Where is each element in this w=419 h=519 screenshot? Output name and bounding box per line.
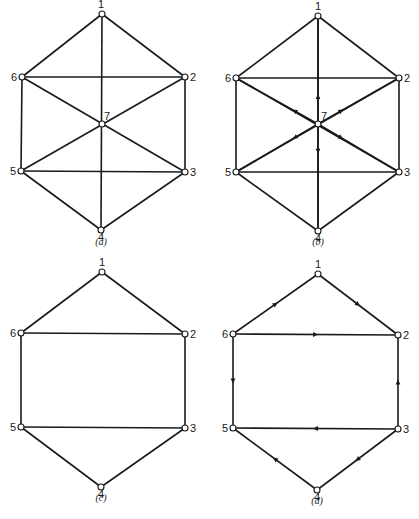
edge-6-2 — [21, 333, 185, 334]
node-label: 3 — [190, 422, 196, 434]
arrowhead-icon — [316, 149, 321, 154]
graph-caption: (d) — [311, 495, 323, 507]
node-3 — [182, 169, 188, 175]
node-label: 3 — [190, 166, 196, 178]
node-label: 7 — [321, 110, 327, 122]
edge-6-1 — [21, 272, 102, 333]
node-5 — [18, 168, 24, 174]
graph-figure: 1234567(a) 1234567(b) 123456(c) 123456(d… — [0, 0, 419, 519]
graph-c: 123456(c) — [10, 256, 196, 504]
node-label: 2 — [404, 72, 410, 84]
node-label: 7 — [104, 110, 110, 122]
node-label: 6 — [10, 327, 16, 339]
node-label: 2 — [190, 71, 196, 83]
arrowhead-icon — [231, 379, 236, 384]
node-2 — [395, 332, 401, 338]
node-3 — [396, 169, 402, 175]
node-2 — [182, 74, 188, 80]
node-label: 2 — [190, 328, 196, 340]
edge-3-4 — [101, 428, 185, 487]
node-label: 3 — [403, 423, 409, 435]
node-2 — [182, 331, 188, 337]
node-label: 1 — [98, 0, 104, 10]
graph-a: 1234567(a) — [10, 0, 196, 248]
edge-4-5 — [21, 427, 101, 487]
arrowhead-icon — [313, 332, 318, 337]
edge-3-4 — [101, 172, 185, 230]
node-label: 5 — [10, 421, 16, 433]
node-2 — [396, 75, 402, 81]
node-6 — [233, 75, 239, 81]
node-label: 1 — [315, 258, 321, 270]
node-6 — [18, 330, 24, 336]
node-label: 1 — [99, 256, 105, 268]
edge-5-3 — [21, 427, 185, 428]
graph-caption: (c) — [95, 492, 107, 504]
node-1 — [315, 271, 321, 277]
node-label: 5 — [225, 166, 231, 178]
node-1 — [99, 11, 105, 17]
graph-caption: (a) — [95, 236, 107, 248]
node-5 — [18, 424, 24, 430]
node-label: 5 — [10, 165, 16, 177]
node-label: 5 — [222, 422, 228, 434]
node-label: 6 — [11, 71, 17, 83]
node-5 — [233, 169, 239, 175]
node-1 — [99, 269, 105, 275]
edge-4-5 — [21, 171, 101, 230]
node-label: 1 — [315, 0, 321, 12]
edge-7-2 — [318, 78, 399, 124]
node-label: 6 — [225, 72, 231, 84]
arrowhead-icon — [316, 94, 321, 99]
graph-b: 1234567(b) — [225, 0, 410, 248]
edge-3-4 — [318, 172, 399, 231]
node-1 — [315, 13, 321, 19]
arrowhead-icon — [396, 380, 401, 385]
edge-1-2 — [102, 272, 185, 334]
graph-caption: (b) — [312, 236, 324, 248]
edge-4-5 — [236, 172, 318, 231]
node-5 — [230, 425, 236, 431]
edge-5-3 — [21, 171, 185, 172]
edge-6-1 — [236, 16, 318, 78]
edge-7-5 — [236, 124, 318, 172]
node-3 — [395, 426, 401, 432]
node-6 — [230, 331, 236, 337]
node-label: 3 — [404, 166, 410, 178]
edge-1-2 — [102, 14, 185, 77]
edge-5-6 — [21, 77, 22, 171]
edge-6-1 — [22, 14, 102, 77]
arrowhead-icon — [313, 426, 318, 431]
graph-d: 123456(d) — [222, 258, 409, 507]
edge-7-6 — [236, 78, 318, 124]
node-3 — [182, 425, 188, 431]
node-6 — [19, 74, 25, 80]
node-label: 6 — [222, 328, 228, 340]
edge-1-2 — [318, 16, 399, 78]
edge-7-3 — [318, 124, 399, 172]
node-label: 2 — [403, 329, 409, 341]
